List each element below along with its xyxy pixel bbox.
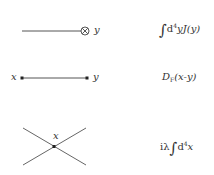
label-y-source: y [94, 25, 100, 35]
label-x-vertex: x [53, 131, 59, 141]
interaction-vertex-dot [53, 145, 56, 148]
source-argument: (y) [187, 23, 200, 34]
label-x-propagator: x [11, 72, 17, 82]
propagator-argument: (x-y) [174, 71, 196, 82]
label-y-propagator: y [93, 72, 99, 82]
propagator-function: D [162, 71, 170, 82]
coupling-prefix: iλ [160, 141, 170, 152]
integral-sign: ∫ [159, 21, 167, 39]
rule-vertex: iλ∫d4x [160, 141, 193, 156]
source-diagram [22, 27, 89, 35]
rule-source: ∫d4yJ(y) [159, 23, 200, 38]
integration-variable: x [188, 141, 194, 152]
vertex-dot-y [86, 77, 89, 80]
rule-propagator: DF(x-y) [162, 72, 197, 83]
propagator-diagram [21, 77, 89, 80]
vertex-dot-x [21, 77, 24, 80]
source-cross-circle-icon [81, 27, 89, 35]
